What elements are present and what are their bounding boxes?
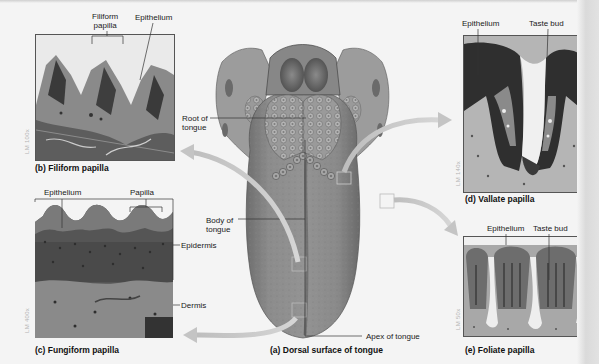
micrograph-fungiform	[35, 202, 173, 338]
micrograph-vallate	[463, 35, 585, 193]
page-edge-shadow	[577, 0, 599, 364]
magnification-c: LM 400x	[24, 308, 30, 333]
label-root-line1: Root of	[182, 114, 208, 123]
label-epithelium-b: Epithelium	[135, 13, 172, 22]
caption-foliate: (e) Foliate papilla	[465, 345, 534, 355]
label-epithelium-e: Epithelium	[487, 224, 524, 233]
figure-page: Root of tongue Body of tongue Apex of to…	[0, 0, 599, 364]
label-root-of-tongue: Root of tongue	[182, 114, 208, 132]
label-filiform-line2: papilla	[92, 21, 118, 30]
magnification-d: LM 140x	[455, 161, 461, 186]
micrograph-filiform	[35, 34, 175, 161]
arrow-to-foliate	[394, 200, 450, 225]
label-taste-bud-d: Taste bud	[529, 19, 564, 28]
label-epithelium-d: Epithelium	[462, 19, 499, 28]
caption-fungiform: (c) Fungiform papilla	[35, 345, 119, 355]
magnification-e: LM 50x	[455, 309, 461, 330]
label-epidermis: Epidermis	[181, 241, 217, 250]
caption-filiform: (b) Filiform papilla	[35, 163, 109, 173]
inset-box-foliate	[380, 194, 394, 208]
label-body-line1: Body of	[206, 216, 233, 225]
label-papilla: Papilla	[130, 188, 154, 197]
label-apex-of-tongue: Apex of tongue	[366, 332, 420, 341]
magnification-b: LM 100x	[24, 129, 30, 154]
label-dermis: Dermis	[181, 301, 206, 310]
label-body-line2: tongue	[206, 225, 233, 234]
caption-vallate: (d) Vallate papilla	[465, 194, 534, 204]
label-taste-bud-e: Taste bud	[533, 224, 568, 233]
label-body-of-tongue: Body of tongue	[206, 216, 233, 234]
label-epithelium-c: Epithelium	[44, 188, 81, 197]
label-filiform-papilla: Filiform papilla	[92, 12, 118, 30]
label-filiform-line1: Filiform	[92, 12, 118, 21]
caption-dorsal-surface: (a) Dorsal surface of tongue	[270, 345, 383, 355]
micrograph-foliate	[463, 236, 585, 337]
label-root-line2: tongue	[182, 123, 208, 132]
